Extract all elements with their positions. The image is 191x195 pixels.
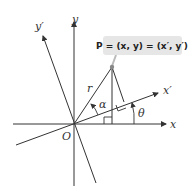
perpendicular-to-x-prime [112, 67, 124, 102]
y-prime-axis [43, 36, 96, 183]
point-label-text: P = (x, y) = (x′, y′) [96, 41, 188, 51]
origin-label: O [62, 130, 71, 143]
callout-pointer [112, 55, 116, 66]
rotation-of-axes-diagram: P = (x, y) = (x′, y′) x y x′ y′ O r α θ [0, 0, 191, 195]
r-label: r [87, 82, 93, 95]
right-angle-mark-x [104, 117, 112, 124]
alpha-arc [91, 104, 98, 115]
theta-arc [132, 103, 134, 124]
alpha-label: α [99, 98, 107, 111]
x-prime-axis [16, 93, 158, 145]
radius-line [74, 67, 112, 124]
x-axis-label: x [170, 118, 177, 131]
y-prime-label: y′ [34, 20, 44, 33]
y-axis-label: y [71, 13, 79, 26]
theta-label: θ [138, 107, 145, 120]
point-p [110, 65, 114, 69]
x-prime-label: x′ [163, 84, 172, 97]
